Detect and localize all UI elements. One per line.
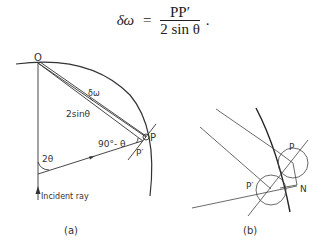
label-p-prime: P′ xyxy=(136,148,143,158)
label-incident-ray: Incident ray xyxy=(41,192,89,201)
caption-a: (a) xyxy=(64,225,78,236)
label-o: O xyxy=(34,52,42,63)
normal-line xyxy=(248,140,308,216)
chord-inner xyxy=(40,62,146,136)
label-angle-complement: 90°- θ xyxy=(98,139,126,149)
label-angle-2theta: 2θ xyxy=(42,154,54,164)
diagram-a-labels: O P P′ δω 2sinθ 90°- θ 2θ Incident ray (… xyxy=(34,52,156,236)
figure: O P P′ δω 2sinθ 90°- θ 2θ Incident ray (… xyxy=(0,0,326,247)
ray-arrow-icon xyxy=(89,156,95,160)
diagram-b xyxy=(192,108,308,216)
label-delta-omega: δω xyxy=(88,89,100,98)
label-p: P xyxy=(150,132,156,143)
segment-p-n xyxy=(293,163,297,185)
ray-bottom xyxy=(192,186,297,208)
circle-p-prime xyxy=(256,175,286,205)
label-b-p: P xyxy=(289,142,295,152)
chord-op-prime xyxy=(38,63,143,141)
caption-b: (b) xyxy=(243,225,257,236)
label-chord-length: 2sinθ xyxy=(66,109,91,119)
diagram-a xyxy=(16,62,156,200)
incident-arrow-icon xyxy=(36,186,41,194)
sphere-arc xyxy=(16,62,152,196)
diagram-b-labels: P P′ N (b) xyxy=(243,142,307,236)
label-b-p-prime: P′ xyxy=(246,181,253,191)
label-b-n: N xyxy=(300,184,307,194)
